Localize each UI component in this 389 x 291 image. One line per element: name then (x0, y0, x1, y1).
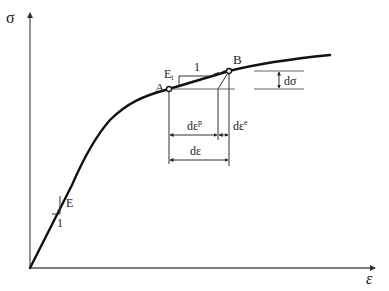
point-A-marker (167, 87, 172, 92)
point-B-marker (227, 69, 232, 74)
elastic-modulus-label: E (66, 196, 73, 210)
x-axis-label: ε (366, 270, 373, 287)
total-strain-increment-label: dε (190, 144, 201, 158)
y-axis-label: σ (6, 9, 15, 26)
plastic-strain-increment-label: dεp (187, 118, 202, 133)
elastic-slope-run-label: 1 (57, 216, 63, 230)
point-B-label: B (233, 52, 242, 67)
tangent-slope-run-label: 1 (194, 60, 200, 74)
dsigma-label: dσ (284, 74, 297, 88)
elastic-strain-increment-label: dεe (233, 118, 248, 133)
tangent-modulus-label: Et (164, 67, 174, 82)
point-A-label: A (155, 80, 165, 95)
stress-strain-diagram: σ ε E 1 Et 1 dσ dεp dεe dε A B (0, 0, 389, 291)
elastic-unloading-line (218, 71, 229, 140)
